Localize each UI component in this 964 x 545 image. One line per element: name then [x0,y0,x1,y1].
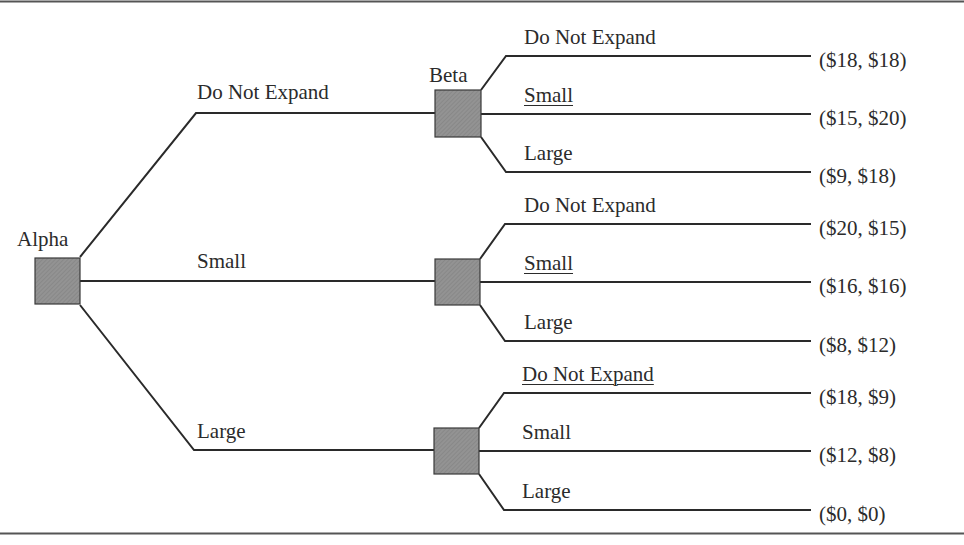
alpha-branch-large [80,305,434,450]
beta1-label-large: Large [524,142,573,164]
beta3-label-do-not-expand: Do Not Expand [522,363,654,385]
alpha-label: Alpha [17,228,68,250]
beta2-label-do-not-expand: Do Not Expand [524,194,656,216]
beta1-label-do-not-expand: Do Not Expand [524,26,656,48]
payoff-1-2: ($15, $20) [819,107,907,129]
beta1-label-small: Small [524,84,573,106]
beta3-label-small: Small [522,421,571,443]
alpha-branch-do-not-expand [80,113,435,257]
alpha-node [35,258,80,304]
payoff-2-1: ($20, $15) [819,217,907,239]
beta2-label-large: Large [524,311,573,333]
payoff-2-2: ($16, $16) [819,275,907,297]
beta-node-2 [435,259,480,305]
beta2-label-small: Small [524,252,573,274]
payoff-3-1: ($18, $9) [819,386,896,408]
payoff-2-3: ($8, $12) [819,334,896,356]
alpha-move-label-large: Large [197,420,246,442]
alpha-move-label-do-not-expand: Do Not Expand [197,81,329,103]
beta-node-1 [435,90,481,137]
payoff-1-1: ($18, $18) [819,49,907,71]
payoff-3-3: ($0, $0) [819,503,886,525]
beta-node-3 [434,428,479,474]
payoff-1-3: ($9, $18) [819,165,896,187]
alpha-move-label-small: Small [197,250,246,272]
beta3-label-large: Large [522,480,571,502]
payoff-3-2: ($12, $8) [819,444,896,466]
beta-label: Beta [429,64,467,86]
